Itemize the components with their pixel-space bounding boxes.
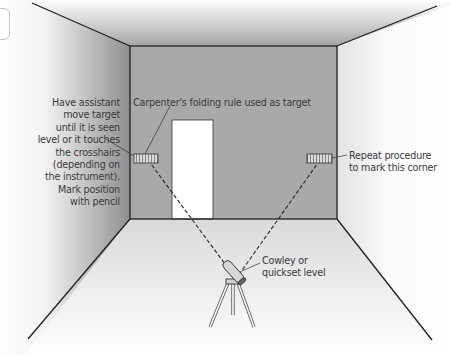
left-instruction-line: with pencil <box>0 196 120 208</box>
right-instruction-label: Repeat procedure to mark this corner <box>349 150 437 175</box>
folding-rule-right <box>307 154 332 163</box>
doorway <box>172 120 213 219</box>
left-instruction-line: the crosshairs <box>0 147 120 159</box>
left-instruction-line: move target <box>0 109 120 121</box>
corner-frame <box>0 8 10 40</box>
left-instruction-label: Have assistant move target until it is s… <box>0 97 120 209</box>
left-instruction-line: the instrument). <box>0 171 120 183</box>
folding-rule-left <box>134 154 158 163</box>
left-instruction-line: until it is seen <box>0 122 120 134</box>
instrument-line: quickset level <box>262 267 325 279</box>
left-instruction-line: Have assistant <box>0 97 120 109</box>
right-instruction-line: to mark this corner <box>349 162 437 174</box>
left-instruction-line: (depending on <box>0 159 120 171</box>
back-wall <box>130 46 337 219</box>
right-instruction-line: Repeat procedure <box>349 150 437 162</box>
instrument-line: Cowley or <box>262 255 325 267</box>
target-label: Carpenter's folding rule used as target <box>133 97 311 109</box>
instrument-label: Cowley or quickset level <box>262 255 325 280</box>
left-instruction-line: Mark position <box>0 184 120 196</box>
left-instruction-line: level or it touches <box>0 134 120 146</box>
